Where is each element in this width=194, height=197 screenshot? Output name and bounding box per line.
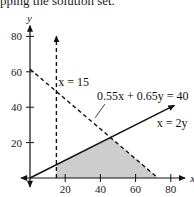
- annotation-leader-line: [95, 104, 105, 118]
- annotation-label-2: x = 2y: [157, 116, 188, 130]
- y-tick-label: 40: [11, 101, 23, 113]
- x-axis-left-arrow: [20, 175, 27, 181]
- x-tick-label: 80: [165, 183, 177, 195]
- linear-programming-chart: 2040608020406080xyx = 150.55x + 0.65y = …: [0, 0, 194, 197]
- x-tick-label: 60: [130, 183, 142, 195]
- annotation-label-1: 0.55x + 0.65y = 40: [97, 89, 189, 103]
- annotation-label-0: x = 15: [58, 75, 89, 89]
- x-tick-label: 20: [60, 183, 72, 195]
- x-axis-label: x: [189, 172, 194, 184]
- y-axis-down-arrow: [27, 181, 33, 188]
- x-tick-label: 40: [95, 183, 107, 195]
- y-tick-label: 60: [11, 66, 23, 78]
- y-tick-label: 20: [11, 137, 23, 149]
- y-tick-label: 80: [11, 30, 23, 42]
- y-axis-label: y: [26, 12, 32, 24]
